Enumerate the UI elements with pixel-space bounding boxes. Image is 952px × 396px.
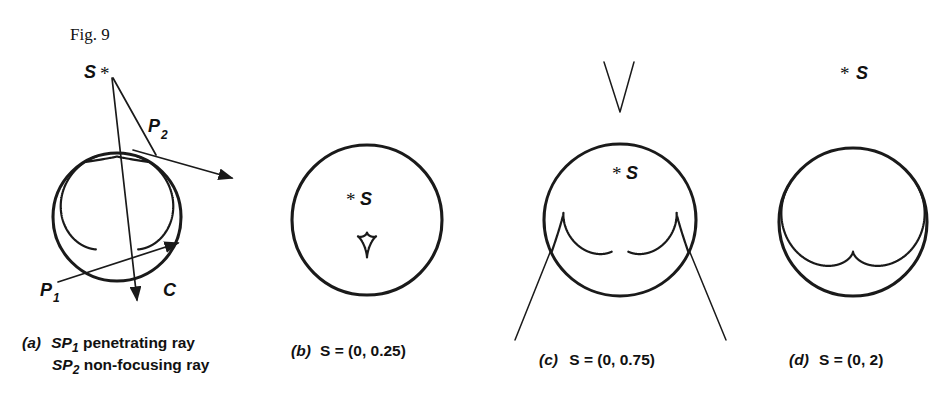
panel-a-caption-sym1: SP xyxy=(51,334,72,351)
panel-a-point-C-label: C xyxy=(163,280,177,300)
panel-b-circle xyxy=(292,145,442,295)
panel-a-ray-penetrating xyxy=(112,78,137,300)
panel-b-caustic-curve xyxy=(358,233,376,258)
panel-a-caption-line2: SP2 non-focusing ray xyxy=(52,356,210,377)
panel-a-point-P2-label: P xyxy=(148,116,161,136)
panel-c-source-label: S xyxy=(626,163,638,183)
panel-a-caustic-curve xyxy=(61,156,174,249)
panel-a-point-P1-sub: 1 xyxy=(53,291,60,305)
panel-b-source-label: S xyxy=(360,189,372,209)
panel-a-caption-letter: (a) xyxy=(22,334,41,351)
figure-title: Fig. 9 xyxy=(70,25,110,44)
panel-c: * S (c) S = (0, 0.75) xyxy=(515,62,726,368)
panel-a-caption-line1: (a) SP1 penetrating ray xyxy=(22,334,195,355)
panel-d-caption-text: S = (0, 2) xyxy=(819,351,883,368)
panel-a-caption-text1: penetrating ray xyxy=(79,334,196,351)
panel-d-caustic-curve xyxy=(781,185,924,266)
panel-a-source-star-icon: * xyxy=(100,63,110,84)
figure-svg: Fig. 9 S * P 1 P 2 C (a) SP1 penetrating… xyxy=(0,0,952,396)
panel-a-caption-text2: non-focusing ray xyxy=(79,356,209,373)
panel-b-caption-letter: (b) xyxy=(291,342,311,359)
panel-d: * S (d) S = (0, 2) xyxy=(779,63,927,368)
panel-a-point-P2-sub: 2 xyxy=(160,128,168,142)
panel-c-caption: (c) S = (0, 0.75) xyxy=(539,351,655,368)
panel-d-circle xyxy=(779,148,927,296)
panel-d-source-label: S xyxy=(856,63,868,83)
panel-b: * S (b) S = (0, 0.25) xyxy=(291,145,442,359)
panel-a-point-P1-label: P xyxy=(40,280,53,300)
panel-d-source-star-icon: * xyxy=(840,63,850,84)
figure-root: Fig. 9 S * P 1 P 2 C (a) SP1 penetrating… xyxy=(0,0,952,396)
panel-c-external-branch-right xyxy=(689,250,726,340)
panel-c-source-star-icon: * xyxy=(612,163,622,184)
panel-a-ray-exit-P2 xyxy=(133,150,232,178)
panel-a-source-label: S xyxy=(84,62,96,82)
panel-d-caption-letter: (d) xyxy=(789,351,809,368)
panel-c-caption-letter: (c) xyxy=(539,351,558,368)
panel-b-source-star-icon: * xyxy=(346,189,356,210)
panel-b-caption-text: S = (0, 0.25) xyxy=(320,342,406,359)
panel-b-caption: (b) S = (0, 0.25) xyxy=(291,342,406,359)
panel-d-caption: (d) S = (0, 2) xyxy=(789,351,883,368)
panel-c-external-branch-left xyxy=(515,250,551,340)
panel-c-caustic-curve xyxy=(552,213,688,254)
panel-c-external-cusp-v xyxy=(604,62,634,112)
panel-a: Fig. 9 S * P 1 P 2 C (a) SP1 penetrating… xyxy=(22,25,232,377)
panel-a-caption-sym2: SP xyxy=(52,356,73,373)
panel-c-caption-text: S = (0, 0.75) xyxy=(569,351,655,368)
